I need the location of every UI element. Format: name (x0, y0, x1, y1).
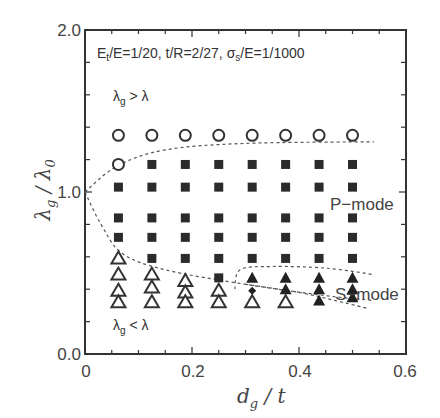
filled-square-marker (214, 160, 223, 169)
open-triangle-marker (111, 295, 125, 307)
open-triangle-marker (145, 268, 159, 280)
y-tick-label-0: 0.0 (57, 345, 81, 364)
open-triangle-marker (111, 251, 125, 263)
filled-square-marker (348, 254, 357, 263)
open-circle-marker (347, 130, 358, 141)
open-triangle-marker (279, 295, 293, 307)
filled-square-marker (214, 213, 223, 222)
region-label-lambda-less: λg < λ (113, 317, 149, 336)
filled-square-marker (181, 213, 190, 222)
x-tick-label-0: 0 (81, 362, 90, 381)
open-circle-marker (314, 130, 325, 141)
open-circle-marker (113, 159, 124, 170)
open-triangle-marker (111, 268, 125, 280)
open-triangle-marker (145, 295, 159, 307)
open-triangle-marker (212, 295, 226, 307)
filled-triangle-marker (246, 272, 258, 283)
filled-square-marker (248, 183, 257, 192)
s-mode-label: S−mode (335, 285, 399, 304)
filled-square-marker (181, 233, 190, 242)
filled-square-marker (315, 254, 324, 263)
filled-triangle-marker (280, 272, 292, 283)
y-tick-label-2: 2.0 (57, 21, 81, 40)
filled-square-marker (248, 213, 257, 222)
open-circle-marker (280, 130, 291, 141)
filled-square-marker (114, 213, 123, 222)
filled-triangle-marker (280, 283, 292, 294)
filled-square-marker (281, 213, 290, 222)
phase-diagram-chart: 2.0 1.0 0.0 0 0.2 0.4 0.6 Et/E=1/20, t/R… (0, 0, 440, 418)
filled-square-marker (114, 233, 123, 242)
x-tick-label-1: 0.2 (181, 362, 205, 381)
filled-square-marker (281, 183, 290, 192)
filled-square-marker (248, 160, 257, 169)
filled-square-marker (281, 160, 290, 169)
y-tick-label-1: 1.0 (57, 183, 81, 202)
filled-triangle-marker (313, 295, 325, 306)
boundary-curves (85, 142, 374, 309)
filled-square-marker (147, 233, 156, 242)
filled-triangle-marker (347, 272, 359, 283)
filled-square-marker (214, 233, 223, 242)
filled-square-marker (348, 213, 357, 222)
region-label-lambda-greater: λg > λ (113, 88, 149, 107)
filled-square-marker (147, 183, 156, 192)
filled-square-marker (181, 183, 190, 192)
open-circle-marker (146, 130, 157, 141)
open-triangle-marker (245, 295, 259, 307)
y-axis-title: λg / λ0 (31, 159, 58, 221)
x-axis-title: dg / t (237, 384, 287, 411)
filled-triangle-marker (313, 283, 325, 294)
filled-square-marker (147, 160, 156, 169)
filled-square-marker (147, 213, 156, 222)
filled-square-marker (214, 183, 223, 192)
filled-square-marker (181, 254, 190, 263)
filled-square-marker (114, 183, 123, 192)
filled-square-marker (248, 254, 257, 263)
filled-square-marker (147, 254, 156, 263)
filled-square-marker (214, 273, 223, 282)
filled-square-marker (281, 233, 290, 242)
x-tick-label-3: 0.6 (393, 362, 417, 381)
p-mode-label: P−mode (330, 195, 394, 214)
filled-square-marker (348, 183, 357, 192)
open-circle-marker (113, 130, 124, 141)
filled-square-marker (181, 160, 190, 169)
open-circle-marker (180, 130, 191, 141)
filled-square-marker (315, 183, 324, 192)
filled-square-marker (315, 160, 324, 169)
parameter-annotation: Et/E=1/20, t/R=2/27, σs/E=1/1000 (97, 45, 305, 63)
filled-square-marker (281, 254, 290, 263)
x-tick-label-2: 0.4 (288, 362, 312, 381)
boundary-curve (85, 142, 374, 192)
filled-square-marker (315, 233, 324, 242)
open-circle-marker (247, 130, 258, 141)
filled-square-marker (348, 160, 357, 169)
filled-square-marker (315, 213, 324, 222)
open-triangle-marker (145, 281, 159, 293)
filled-triangle-marker (313, 272, 325, 283)
filled-square-marker (348, 233, 357, 242)
filled-square-marker (214, 254, 223, 263)
open-circle-marker (213, 130, 224, 141)
filled-square-marker (248, 233, 257, 242)
filled-diamond-marker (248, 287, 256, 295)
